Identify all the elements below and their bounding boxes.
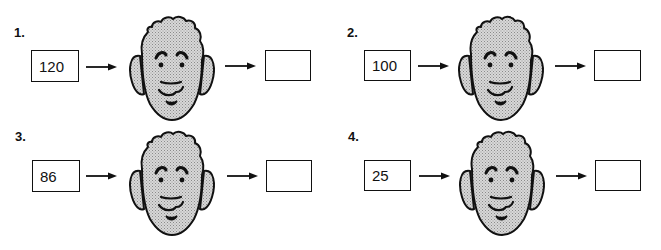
answer-box[interactable]: [265, 50, 311, 81]
answer-box[interactable]: [594, 50, 641, 81]
right-arrow-icon: [86, 62, 118, 72]
right-arrow-icon: [225, 61, 257, 71]
input-box: 86: [32, 160, 80, 192]
right-arrow-icon: [227, 171, 259, 181]
problem-number: 2.: [347, 26, 358, 39]
cartoon-face-icon: [128, 14, 218, 122]
right-arrow-icon: [419, 171, 451, 181]
input-box: 100: [364, 50, 411, 81]
problem-number: 4.: [348, 130, 359, 143]
problem-number: 1.: [14, 26, 25, 39]
right-arrow-icon: [418, 61, 450, 71]
input-box: 25: [364, 160, 411, 191]
cartoon-face-icon: [128, 129, 218, 237]
cartoon-face-icon: [457, 14, 547, 122]
input-box: 120: [31, 50, 79, 82]
answer-box[interactable]: [595, 160, 641, 191]
right-arrow-icon: [555, 61, 587, 71]
right-arrow-icon: [86, 171, 118, 181]
cartoon-face-icon: [458, 129, 548, 237]
right-arrow-icon: [556, 171, 588, 181]
problem-number: 3.: [15, 130, 26, 143]
answer-box[interactable]: [266, 160, 312, 192]
